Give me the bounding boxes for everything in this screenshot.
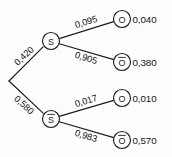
edge-label-s-to-obar: 0,905 (74, 50, 99, 66)
tree-svg-canvas: S S O O O O 0,420 (0, 0, 172, 157)
edge-label-sbar-to-obar: 0,983 (74, 128, 99, 144)
leaf-value-o-complement-upper: 0,380 (133, 57, 158, 68)
node-s-complement-label: S (48, 115, 54, 125)
node-o-lower-label: O (118, 94, 125, 104)
leaf-value-o-complement-bottom: 0,570 (133, 135, 158, 146)
node-o-top-label: O (118, 15, 125, 25)
node-s-complement[interactable]: S (43, 111, 60, 128)
node-o-complement-upper-label: O (118, 58, 125, 68)
node-o-lower[interactable]: O (114, 90, 131, 107)
edge-group (9, 22, 114, 138)
probability-tree-diagram: S S O O O O 0,420 (0, 0, 172, 157)
node-o-complement-bottom[interactable]: O (114, 132, 131, 149)
node-o-complement-bottom-label: O (118, 136, 125, 146)
edge-label-sbar-to-o: 0,017 (74, 93, 99, 109)
leaf-value-o-lower: 0,010 (133, 93, 158, 104)
node-o-complement-upper[interactable]: O (114, 54, 131, 71)
edge-label-root-to-sbar: 0,580 (12, 94, 35, 117)
edge-label-root-to-s: 0,420 (12, 45, 35, 68)
node-o-top[interactable]: O (114, 11, 131, 28)
node-s[interactable]: S (43, 33, 60, 50)
node-s-label: S (48, 37, 54, 47)
leaf-value-o-top: 0,040 (133, 14, 158, 25)
